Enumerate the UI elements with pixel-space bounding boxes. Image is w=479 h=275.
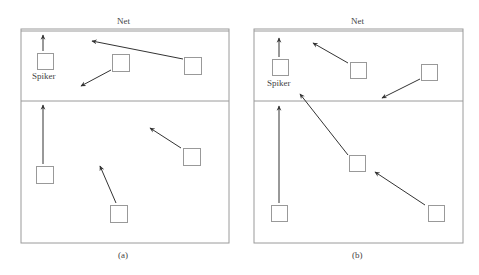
movement-arrow-icon <box>150 128 181 148</box>
player-box-back-middle <box>350 156 366 172</box>
caption-b: (b) <box>352 250 363 260</box>
movement-arrow-icon <box>100 166 116 203</box>
player-box-back-left <box>37 167 54 184</box>
movement-arrow-icon <box>313 43 348 63</box>
caption-a: (a) <box>118 250 128 260</box>
movement-arrow-icon <box>382 79 420 98</box>
player-box-front-middle <box>351 63 367 79</box>
volleyball-court-diagram <box>0 0 479 275</box>
court-panel-b <box>254 29 463 243</box>
movement-arrow-icon <box>375 172 425 205</box>
movement-arrow-icon <box>81 70 111 86</box>
player-box-spiker <box>273 60 289 76</box>
movement-arrow-icon <box>300 94 348 155</box>
court-panel-a <box>21 29 229 243</box>
movement-arrow-icon <box>92 41 183 59</box>
player-box-back-right <box>184 149 201 166</box>
net-label-a: Net <box>117 16 130 26</box>
player-box-spiker <box>38 54 54 70</box>
spiker-label-a: Spiker <box>32 71 56 81</box>
player-box-back-right <box>429 206 445 222</box>
player-box-front-middle <box>113 55 130 72</box>
player-box-front-right <box>185 58 202 75</box>
player-box-back-middle <box>111 206 128 223</box>
player-box-back-left <box>272 206 288 222</box>
net-label-b: Net <box>351 16 364 26</box>
player-box-front-right <box>422 65 438 81</box>
spiker-label-b: Spiker <box>267 78 291 88</box>
